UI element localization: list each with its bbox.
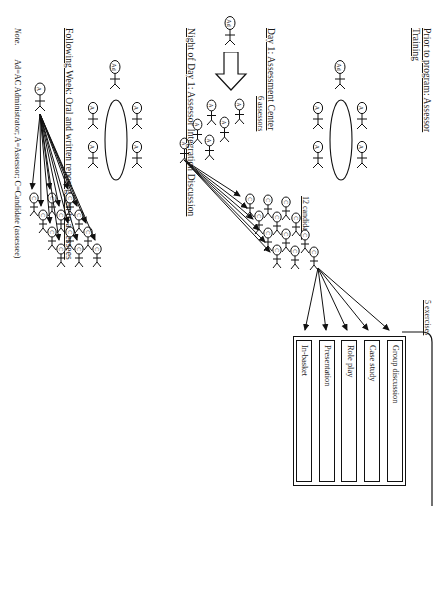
svg-text:C: C	[58, 213, 64, 217]
person-assessor-day1-2: A	[218, 116, 233, 132]
svg-text:A: A	[36, 87, 42, 92]
exercises-box: Group discussion Case study Role play Pr…	[293, 336, 406, 486]
person-assessor-night-3: A	[87, 101, 102, 117]
svg-text:C: C	[31, 196, 37, 200]
svg-text:A: A	[236, 102, 242, 106]
person-candidate-10: C	[252, 210, 267, 226]
person-assessor-following: A	[35, 82, 50, 98]
person-candidate-feedback-6: C	[54, 209, 69, 225]
svg-text:C: C	[247, 197, 253, 201]
person-candidate-9: C	[243, 193, 258, 209]
svg-text:A: A	[314, 145, 320, 150]
svg-text:C: C	[274, 215, 280, 219]
exercise-item-role-play: Role play	[342, 340, 358, 482]
exercise-item-in-basket: In-basket	[296, 340, 312, 482]
person-assessor-prior-2: A	[356, 140, 371, 156]
person-candidate-11: C	[261, 227, 276, 243]
person-candidate-feedback-10: C	[36, 209, 51, 225]
person-candidate-feedback-5: C	[45, 192, 60, 208]
section-heading-prior: Prior to program: Assessor Training	[411, 28, 432, 160]
svg-text:C: C	[265, 231, 271, 235]
person-assessor-prior-4: A	[312, 140, 327, 156]
person-candidate-5: C	[261, 194, 276, 210]
svg-text:C: C	[49, 196, 55, 200]
svg-text:A: A	[314, 106, 320, 111]
person-administrator-night: Ad	[109, 60, 124, 76]
person-candidate-feedback-7: C	[63, 226, 78, 242]
note-text: Ad=AC Administrator; A=Assessor; C=Candi…	[13, 59, 22, 258]
svg-text:Ad: Ad	[226, 19, 232, 26]
person-candidate-12: C	[270, 244, 285, 260]
person-assessor-night-2: A	[131, 140, 146, 156]
person-candidate-feedback-9: C	[27, 192, 42, 208]
svg-text:C: C	[256, 214, 262, 218]
person-candidate-feedback-12: C	[54, 243, 69, 259]
section-heading-night: Night of Day 1: Assessor Integration Dis…	[185, 28, 196, 216]
figure-canvas: Prior to program: Assessor Training Ad A	[0, 0, 446, 593]
svg-text:C: C	[67, 196, 73, 200]
svg-text:A: A	[133, 106, 139, 111]
svg-text:C: C	[283, 200, 289, 204]
person-candidate-feedback-1: C	[63, 192, 78, 208]
person-candidate-8: C	[288, 245, 303, 261]
svg-text:C: C	[302, 233, 308, 237]
svg-text:C: C	[283, 232, 289, 236]
svg-text:C: C	[85, 230, 91, 234]
person-assessor-day1-4: A	[205, 99, 220, 115]
svg-text:C: C	[40, 213, 46, 217]
svg-text:A: A	[358, 106, 364, 111]
person-assessor-prior-1: A	[356, 101, 371, 117]
svg-text:A: A	[221, 120, 227, 124]
svg-text:A: A	[89, 145, 95, 150]
person-administrator-prior: Ad	[334, 60, 349, 76]
svg-text:C: C	[58, 247, 64, 251]
note-line: Note. Ad=AC Administrator; A=Assessor; C…	[13, 28, 22, 259]
section-heading-day1: Day 1: Assessment Center	[265, 28, 276, 130]
svg-text:C: C	[274, 248, 280, 252]
svg-text:C: C	[293, 216, 299, 220]
svg-text:C: C	[76, 213, 82, 217]
person-candidate-7: C	[279, 228, 294, 244]
person-candidate-feedback-8: C	[72, 243, 87, 259]
svg-text:A: A	[133, 145, 139, 150]
svg-text:Ad: Ad	[111, 63, 117, 70]
svg-text:C: C	[311, 250, 317, 254]
person-candidate-feedback-2: C	[72, 209, 87, 225]
person-assessor-prior-3: A	[312, 101, 327, 117]
svg-text:A: A	[89, 106, 95, 111]
exercise-item-presentation: Presentation	[319, 340, 335, 482]
svg-text:A: A	[358, 145, 364, 150]
person-candidate-feedback-3: C	[81, 226, 96, 242]
svg-text:A: A	[208, 103, 214, 107]
exercise-item-group-discussion: Group discussion	[387, 340, 403, 482]
person-administrator-day1: Ad	[225, 16, 240, 32]
svg-text:C: C	[67, 230, 73, 234]
person-candidate-2: C	[289, 212, 304, 228]
label-six-assessors: 6 assessors	[255, 96, 264, 131]
person-candidate-3: C	[298, 229, 313, 245]
person-candidate-feedback-11: C	[45, 226, 60, 242]
svg-text:Ad: Ad	[336, 63, 342, 70]
svg-text:A: A	[206, 138, 212, 142]
person-candidate-6: C	[270, 211, 285, 227]
person-candidate-1: C	[279, 196, 294, 212]
svg-text:C: C	[76, 247, 82, 251]
person-candidate-feedback-4: C	[90, 243, 105, 259]
person-assessor-day1-1: A	[233, 98, 248, 114]
exercise-item-case-study: Case study	[364, 340, 380, 482]
hollow-arrow-administrator-to-assessors	[214, 52, 248, 92]
svg-text:C: C	[49, 230, 55, 234]
label-five-exercises: 5 exercises	[422, 300, 431, 335]
person-assessor-night-4: A	[87, 140, 102, 156]
svg-text:C: C	[265, 198, 271, 202]
svg-text:C: C	[94, 247, 100, 251]
person-candidate-4: C	[307, 246, 322, 262]
svg-text:C: C	[292, 249, 298, 253]
person-assessor-night-1: A	[131, 101, 146, 117]
note-label: Note.	[13, 28, 22, 46]
